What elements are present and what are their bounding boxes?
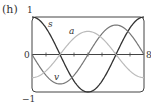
plot-area bbox=[0, 0, 151, 107]
